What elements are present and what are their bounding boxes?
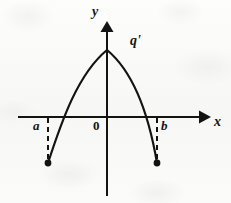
plot-graphic — [0, 0, 231, 203]
endpoint-dot-a — [45, 160, 52, 167]
x-axis-arrow-icon — [199, 111, 211, 124]
curve-label-q-prime: q' — [130, 34, 141, 48]
endpoint-dot-b — [154, 160, 161, 167]
x-axis-label: x — [214, 115, 221, 129]
y-axis-label: y — [92, 5, 98, 19]
origin-label: 0 — [93, 119, 100, 132]
figure-canvas: y x q' a b 0 — [0, 0, 231, 203]
y-axis-arrow-icon — [101, 21, 114, 32]
marker-label-b: b — [161, 119, 168, 132]
marker-label-a: a — [33, 119, 40, 132]
curve-q-prime — [48, 50, 157, 163]
